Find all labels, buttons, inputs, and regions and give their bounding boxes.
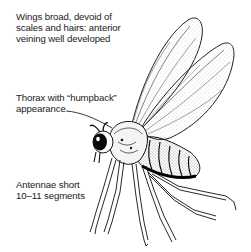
insect-illustration [0,0,251,252]
compound-eye [93,134,107,151]
mouthparts [94,152,100,163]
antennae [90,123,108,132]
thorax-pointer-line [66,111,112,128]
thorax [109,121,147,164]
head [93,131,113,163]
